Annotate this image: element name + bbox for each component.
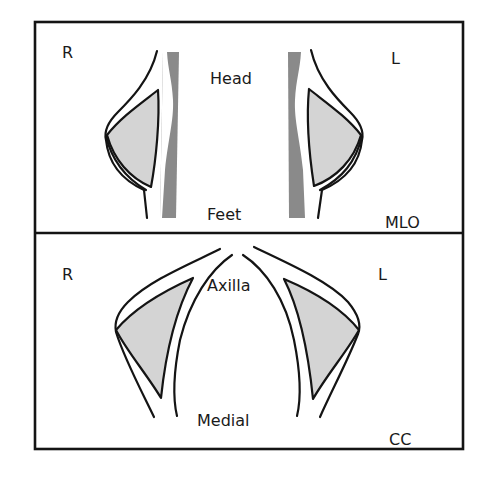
- cc-left-side-label: L: [378, 267, 387, 283]
- mlo-head-label: Head: [210, 71, 252, 87]
- cc-axilla-label: Axilla: [207, 278, 251, 294]
- left-mlo-gland: [308, 89, 361, 186]
- left-mlo-breast-icon: [288, 50, 363, 218]
- left-cc-breast-icon: [243, 247, 360, 417]
- right-cc-breast-icon: [116, 249, 233, 417]
- cc-right-side-label: R: [62, 267, 73, 283]
- left-cc-gland: [284, 279, 359, 399]
- mlo-right-side-label: R: [62, 45, 73, 61]
- mlo-view-label: MLO: [385, 215, 420, 231]
- left-cc-chest-wall: [243, 255, 300, 416]
- cc-medial-label: Medial: [197, 413, 250, 429]
- right-mlo-gland: [107, 90, 159, 187]
- mlo-feet-label: Feet: [207, 207, 241, 223]
- mlo-left-side-label: L: [391, 51, 400, 67]
- right-mlo-breast-icon: [106, 51, 180, 218]
- cc-panel: [116, 247, 360, 417]
- cc-view-label: CC: [389, 432, 411, 448]
